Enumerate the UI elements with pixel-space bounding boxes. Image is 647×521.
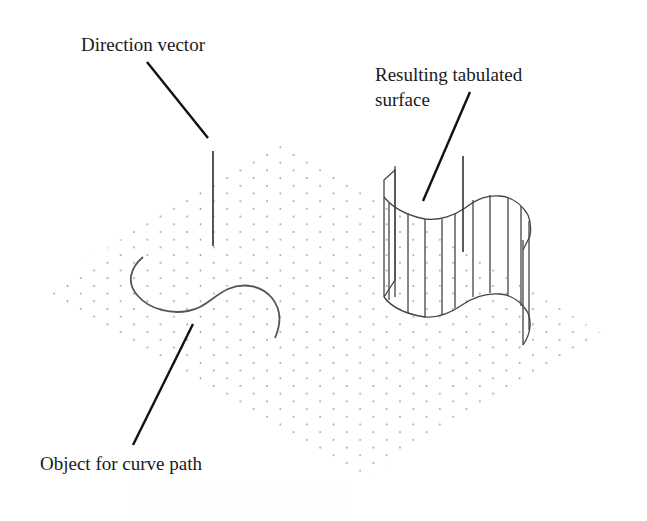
curve-path-label: Object for curve path <box>40 452 202 476</box>
faint-watermark <box>130 482 350 518</box>
resulting-surface-label-line2: surface <box>375 88 430 112</box>
resulting-surface-label: Resulting tabulated <box>375 63 522 87</box>
diagram-graphics <box>0 0 647 521</box>
dot-grid <box>0 0 647 521</box>
direction-vector-label: Direction vector <box>81 33 205 57</box>
diagram-canvas: Direction vector Resulting tabulated sur… <box>0 0 647 521</box>
direction-vector-leader <box>147 62 208 138</box>
